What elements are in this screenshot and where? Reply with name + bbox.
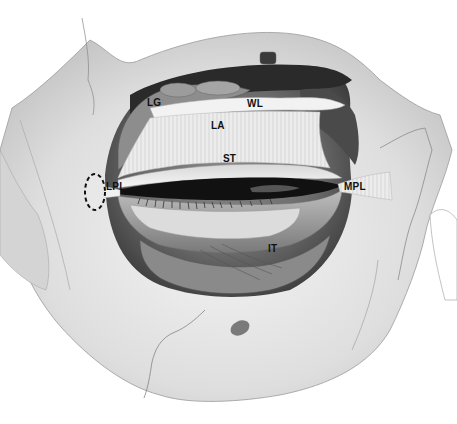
label-superior-tarsus: ST [223,154,236,164]
gland-lobule [160,83,196,97]
trochlea [260,52,276,64]
orbit-drawing [0,0,457,424]
label-inferior-tarsus: IT [268,244,277,254]
anatomy-illustration: LG WL LA ST LPL MPL IT [0,0,457,424]
gland-lobule [196,81,240,95]
label-lateral-palpebral-ligament: LPL [106,182,126,192]
label-medial-palpebral-ligament: MPL [344,182,366,192]
label-levator-aponeurosis: LA [211,121,225,131]
medial-notch [430,210,457,300]
label-lacrimal-gland: LG [147,98,161,108]
lpl-highlight-ellipse [85,174,105,210]
label-whitnall-ligament: WL [247,99,263,109]
